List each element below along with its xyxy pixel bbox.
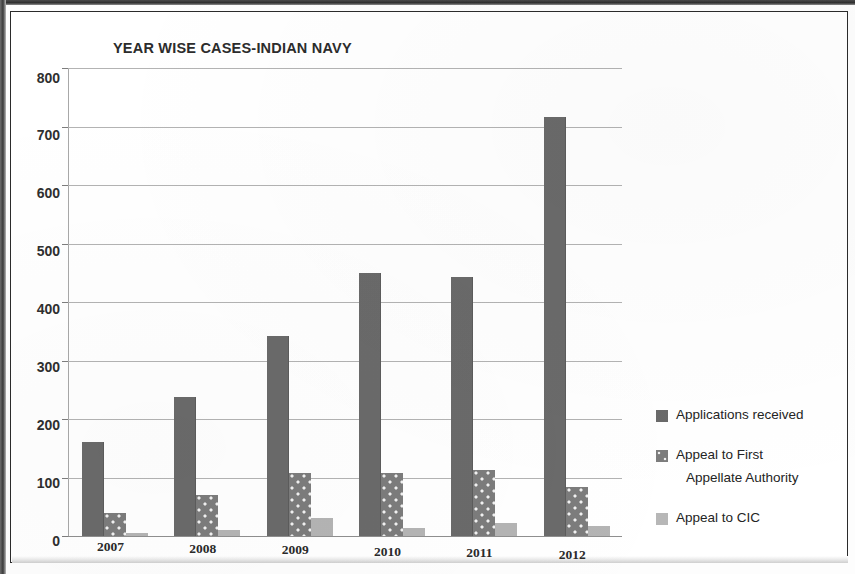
y-axis-tick: [62, 302, 68, 303]
bar-group: [174, 68, 240, 536]
bar-group: [267, 68, 333, 536]
bar: [473, 470, 495, 536]
y-tick-label: 300: [14, 359, 60, 375]
bar: [544, 117, 566, 536]
bar: [104, 513, 126, 536]
bar-group: [82, 68, 148, 536]
y-axis-tick: [62, 127, 68, 128]
x-axis-tick-labels: 200720082009201020112012: [68, 539, 622, 563]
bar: [381, 473, 403, 536]
y-tick-label: 400: [14, 301, 60, 317]
legend-item-applications-received: Applications received: [650, 407, 846, 426]
y-tick-label: 500: [14, 243, 60, 259]
gridline: [68, 536, 622, 537]
dotted-gray-swatch-icon: [656, 450, 668, 462]
bar: [289, 473, 311, 536]
page-left-edge: [0, 0, 6, 574]
x-tick-label-2007: 2007: [97, 539, 124, 555]
bar: [196, 495, 218, 536]
y-tick-label: 700: [14, 127, 60, 143]
bar-group: [451, 68, 517, 536]
legend-label: Applications received: [676, 407, 804, 422]
y-axis-tick: [62, 244, 68, 245]
y-axis-tick: [62, 361, 68, 362]
y-tick-label: 0: [14, 533, 60, 549]
page-top-edge: [0, 0, 855, 5]
y-axis-tick: [62, 68, 68, 69]
bar: [566, 487, 588, 536]
chart-title: YEAR WISE CASES-INDIAN NAVY: [113, 40, 352, 56]
y-tick-label: 200: [14, 417, 60, 433]
gridline: [68, 127, 622, 128]
gridline: [68, 361, 622, 362]
y-axis-tick: [62, 536, 68, 537]
light-gray-swatch-icon: [656, 513, 668, 525]
chart-legend: Applications received Appeal to First Ap…: [650, 407, 846, 550]
y-tick-label: 800: [14, 70, 60, 86]
bar: [403, 528, 425, 536]
y-axis-tick: [62, 185, 68, 186]
legend-item-appeal-first-appellate: Appeal to First: [650, 447, 846, 466]
bar: [174, 397, 196, 536]
bar: [218, 530, 240, 536]
bar: [588, 526, 610, 536]
gridline: [68, 302, 622, 303]
bar: [82, 442, 104, 536]
gridline: [68, 185, 622, 186]
x-tick-label-2010: 2010: [374, 544, 401, 560]
bar-group: [359, 68, 425, 536]
gridline: [68, 244, 622, 245]
bar: [311, 518, 333, 536]
gridline: [68, 68, 622, 69]
legend-label: Appeal to CIC: [676, 510, 760, 525]
bar: [495, 523, 517, 536]
legend-item-appeal-first-appellate-line2: Appellate Authority: [650, 470, 846, 489]
bar: [359, 273, 381, 536]
bar: [451, 277, 473, 536]
legend-label: Appeal to First: [676, 447, 763, 462]
y-axis-tick-labels: 800 700 600 500 400 300 200 100 0: [10, 68, 60, 536]
scanned-chart-page: YEAR WISE CASES-INDIAN NAVY 800 700 600 …: [0, 0, 855, 574]
x-tick-label-2012: 2012: [559, 547, 586, 563]
y-axis-tick: [62, 478, 68, 479]
dark-gray-swatch-icon: [656, 410, 668, 422]
x-tick-label-2009: 2009: [282, 542, 309, 558]
legend-label-continued: Appellate Authority: [686, 470, 799, 485]
y-tick-label: 600: [14, 185, 60, 201]
y-axis-tick: [62, 419, 68, 420]
x-tick-label-2011: 2011: [466, 545, 492, 561]
x-tick-label-2008: 2008: [189, 541, 216, 557]
plot-area: [68, 68, 622, 536]
bar: [126, 533, 148, 536]
gridline: [68, 478, 622, 479]
y-tick-label: 100: [14, 475, 60, 491]
bar-group: [544, 68, 610, 536]
bar-chart: YEAR WISE CASES-INDIAN NAVY 800 700 600 …: [10, 11, 848, 563]
bar: [267, 336, 289, 536]
gridline: [68, 419, 622, 420]
legend-item-appeal-to-cic: Appeal to CIC: [650, 510, 846, 529]
